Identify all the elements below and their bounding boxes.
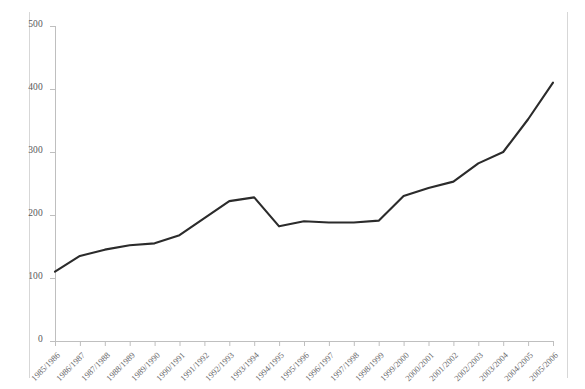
y-axis-ticks <box>50 27 55 342</box>
y-axis-tick-label: 500 <box>13 19 43 29</box>
chart-figure: 0100200300400500 1985/19861986/19871987/… <box>0 0 585 389</box>
y-axis-tick-label: 0 <box>13 334 43 344</box>
data-series-line <box>55 83 553 272</box>
y-axis-tick-label: 400 <box>13 82 43 92</box>
line-chart-plot <box>0 0 585 389</box>
y-axis-tick-label: 300 <box>13 145 43 155</box>
chart-axes <box>55 26 554 342</box>
y-axis-tick-label: 100 <box>13 271 43 281</box>
y-axis-tick-label: 200 <box>13 208 43 218</box>
x-axis-ticks <box>56 342 554 346</box>
